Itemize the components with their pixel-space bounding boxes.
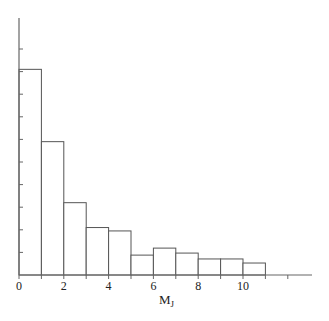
x-tick-label: 8	[195, 279, 201, 293]
x-tick-label: 6	[150, 279, 156, 293]
histogram-bar	[176, 253, 198, 275]
histogram-bar	[153, 248, 175, 275]
histogram-bars	[19, 69, 265, 275]
histogram-bar	[198, 259, 220, 275]
histogram-bar	[243, 263, 265, 275]
histogram-bar	[64, 203, 86, 275]
histogram-bar	[131, 255, 153, 275]
histogram-chart: 0246810 MJ	[0, 0, 329, 321]
histogram-bar	[19, 69, 41, 275]
x-axis-tick-labels: 0246810	[16, 279, 249, 293]
x-tick-label: 10	[237, 279, 249, 293]
histogram-bar	[109, 231, 131, 275]
x-tick-label: 2	[61, 279, 67, 293]
histogram-bar	[86, 228, 108, 275]
x-tick-label: 4	[106, 279, 112, 293]
x-axis-label: MJ	[159, 292, 175, 309]
x-tick-label: 0	[16, 279, 22, 293]
histogram-bar	[41, 142, 63, 275]
histogram-bar	[221, 259, 243, 275]
